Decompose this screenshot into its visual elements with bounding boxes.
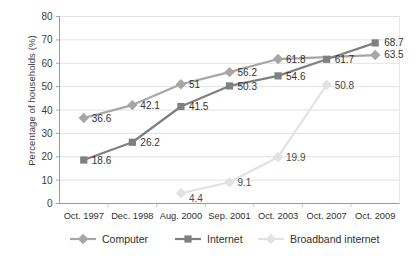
data-point-label: 61.7 — [335, 54, 355, 65]
data-point-label: 42.1 — [140, 100, 160, 111]
legend-group: ComputerInternetBroadband internet — [70, 233, 379, 245]
data-point-label: 50.3 — [238, 81, 258, 92]
y-tick-label: 70 — [41, 34, 53, 45]
y-tick-label: 80 — [41, 11, 53, 22]
data-point-marker — [79, 113, 89, 123]
data-point-marker — [372, 39, 379, 46]
legend-item-broadband-internet[interactable]: Broadband internet — [258, 233, 379, 245]
data-point-marker — [224, 67, 234, 77]
series-broadband-internet — [176, 80, 332, 199]
x-tick-label: Dec. 1998 — [111, 211, 153, 221]
y-tick-labels-group: 01020304050607080 — [41, 11, 53, 209]
chart-container: Percentage of households (%) 01020304050… — [0, 0, 420, 259]
data-point-label: 4.4 — [189, 193, 203, 204]
data-point-marker — [323, 56, 330, 63]
x-tick-label: Oct. 1997 — [64, 211, 104, 221]
data-point-marker — [176, 79, 186, 89]
data-point-label: 61.8 — [286, 54, 306, 65]
legend-label: Internet — [207, 233, 243, 245]
data-point-marker — [176, 188, 186, 198]
data-point-marker — [127, 100, 137, 110]
y-tick-label: 50 — [41, 81, 53, 92]
chart-plot: 01020304050607080 Oct. 1997Dec. 1998Aug.… — [0, 0, 420, 259]
y-tick-label: 30 — [41, 128, 53, 139]
data-point-label: 19.9 — [286, 152, 306, 163]
legend-label: Broadband internet — [290, 233, 379, 245]
data-point-label: 56.2 — [238, 67, 258, 78]
data-point-label: 68.7 — [384, 37, 404, 48]
data-point-marker — [370, 50, 380, 60]
data-point-marker — [226, 82, 233, 89]
x-tick-labels-group: Oct. 1997Dec. 1998Aug. 2000Sep. 2001Oct.… — [64, 211, 396, 221]
data-point-marker — [129, 139, 136, 146]
data-point-marker — [80, 156, 87, 163]
data-point-marker — [224, 177, 234, 187]
data-point-label: 9.1 — [238, 177, 252, 188]
data-point-marker — [273, 54, 283, 64]
data-point-marker — [266, 234, 276, 244]
x-tick-label: Oct. 2003 — [258, 211, 298, 221]
y-tick-label: 40 — [41, 105, 53, 116]
series-line — [84, 43, 375, 160]
data-point-marker — [177, 103, 184, 110]
data-point-label: 26.2 — [140, 137, 160, 148]
y-tick-label: 10 — [41, 175, 53, 186]
data-point-marker — [78, 234, 88, 244]
data-point-marker — [274, 72, 281, 79]
data-point-label: 36.6 — [92, 113, 112, 124]
y-tick-label: 0 — [47, 198, 53, 209]
legend-item-computer[interactable]: Computer — [70, 233, 149, 245]
data-point-label: 50.8 — [335, 80, 355, 91]
x-tick-label: Aug. 2000 — [160, 211, 202, 221]
data-point-label: 51 — [189, 79, 201, 90]
legend-label: Computer — [102, 233, 149, 245]
data-labels-group: 36.642.15156.261.863.518.626.241.550.354… — [92, 37, 404, 204]
x-tick-label: Oct. 2009 — [355, 211, 395, 221]
data-point-label: 41.5 — [189, 101, 209, 112]
data-point-label: 18.6 — [92, 155, 112, 166]
x-tick-label: Sep. 2001 — [208, 211, 250, 221]
legend-item-internet[interactable]: Internet — [175, 233, 243, 245]
data-point-marker — [184, 235, 191, 242]
x-tick-label: Oct. 2007 — [306, 211, 346, 221]
data-point-label: 63.5 — [384, 49, 404, 60]
y-tick-label: 60 — [41, 58, 53, 69]
data-point-label: 54.6 — [286, 71, 306, 82]
y-tick-label: 20 — [41, 151, 53, 162]
